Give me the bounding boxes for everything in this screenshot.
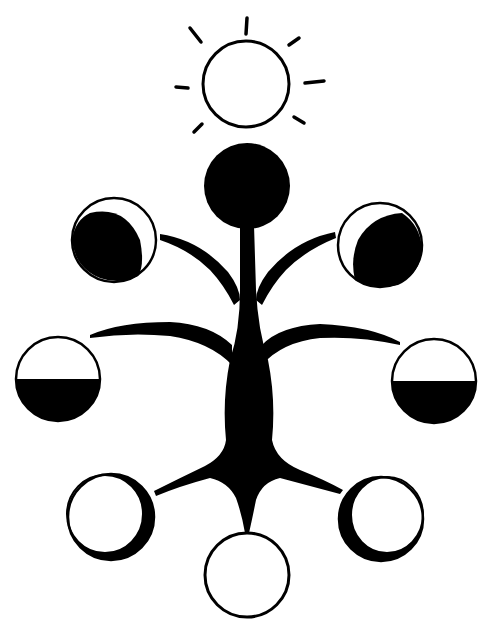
moon-tree-illustration: Tree of moon phases with sun <box>0 0 489 641</box>
full-moon-icon <box>205 533 289 617</box>
gibbous-right-icon <box>339 477 423 561</box>
crescent-right-icon <box>338 203 422 287</box>
new-moon-icon <box>204 143 290 229</box>
half-moon-right-icon <box>392 339 476 423</box>
half-moon-left-icon <box>16 337 100 421</box>
crescent-left-icon <box>72 198 156 282</box>
gibbous-left-icon <box>67 474 154 560</box>
sun-icon <box>176 18 324 132</box>
